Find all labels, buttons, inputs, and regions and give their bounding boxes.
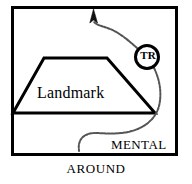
mental-label: MENTAL — [111, 138, 167, 151]
landmark-label: Landmark — [37, 85, 104, 101]
diagram-figure: Landmark TR MENTAL AROUND — [0, 0, 192, 184]
figure-caption: AROUND — [0, 162, 192, 175]
tr-node-label: TR — [136, 50, 160, 61]
